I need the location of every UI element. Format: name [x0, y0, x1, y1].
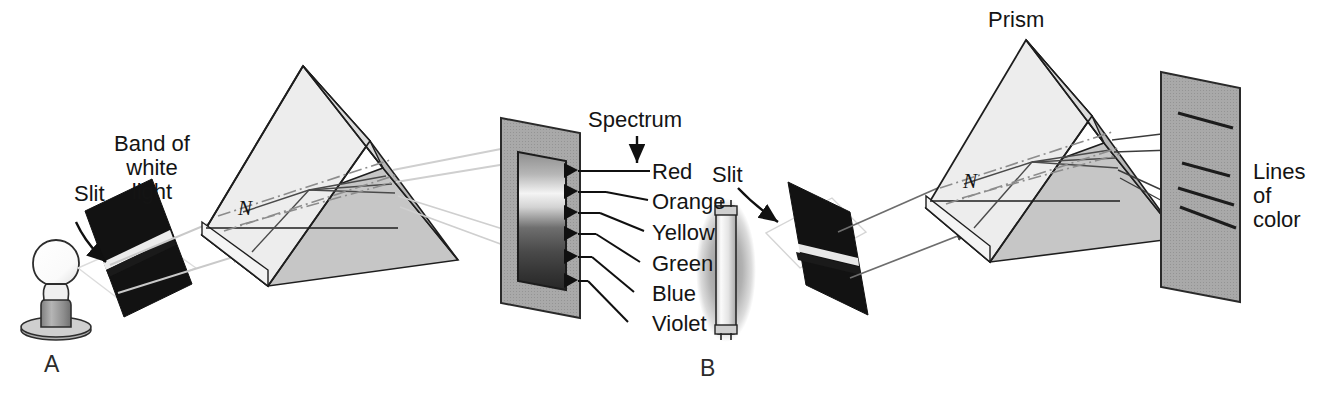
panel-letter-a: A — [44, 352, 59, 377]
color-label-green: Green — [652, 252, 713, 276]
normal-label-b: N — [963, 170, 977, 193]
lines-of-color-label: Lines of color — [1253, 160, 1306, 231]
color-label-violet: Violet — [652, 312, 707, 336]
dispersion-figure: Slit Band of white light N Spectrum Red … — [0, 0, 1329, 406]
slit-panel-b — [766, 182, 868, 315]
prism-label: Prism — [988, 8, 1044, 32]
spectrum-leaders-a — [578, 171, 650, 322]
slit-label-b: Slit — [712, 163, 743, 187]
color-label-orange: Orange — [652, 190, 725, 214]
screen-a — [501, 118, 580, 318]
color-label-red: Red — [652, 160, 692, 184]
color-label-yellow: Yellow — [652, 221, 715, 245]
prism-a — [202, 66, 458, 286]
normal-label-a: N — [238, 197, 252, 220]
screen-b — [1161, 72, 1240, 302]
band-of-white-light-label: Band of white light — [93, 132, 211, 203]
color-label-blue: Blue — [652, 282, 696, 306]
panel-letter-b: B — [700, 356, 715, 381]
incandescent-bulb-icon — [21, 240, 91, 340]
continuous-spectrum-band — [518, 152, 566, 290]
spectrum-label: Spectrum — [588, 108, 682, 132]
